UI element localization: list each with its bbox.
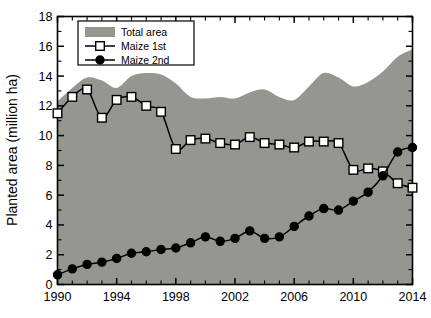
data-point-marker xyxy=(305,212,313,220)
data-point-marker xyxy=(364,188,372,196)
x-tick-label: 2006 xyxy=(280,290,308,304)
data-point-marker xyxy=(334,139,343,148)
data-point-marker xyxy=(275,233,283,241)
y-tick-label: 2 xyxy=(46,248,53,262)
data-point-marker xyxy=(142,248,150,256)
y-axis-title: Planted area (million ha) xyxy=(4,74,20,226)
data-point-marker xyxy=(83,260,91,268)
data-point-marker xyxy=(305,137,314,146)
data-point-marker xyxy=(334,206,342,214)
legend-label: Total area xyxy=(121,26,167,38)
legend-marker-open-square xyxy=(96,42,105,51)
data-point-marker xyxy=(127,249,135,257)
data-point-marker xyxy=(275,140,284,149)
data-point-marker xyxy=(394,148,402,156)
y-tick-label: 6 xyxy=(46,189,53,203)
data-point-marker xyxy=(364,164,373,173)
data-point-marker xyxy=(83,85,92,94)
plot-area xyxy=(58,49,413,284)
data-point-marker xyxy=(349,166,358,175)
data-point-marker xyxy=(408,143,416,151)
y-tick-label: 12 xyxy=(39,99,53,113)
data-point-marker xyxy=(290,143,299,152)
chart-container: 0246810121416181990199419982002200620102… xyxy=(0,0,431,318)
data-point-marker xyxy=(260,139,269,148)
data-point-marker xyxy=(157,107,166,116)
y-tick-label: 10 xyxy=(39,129,53,143)
data-point-marker xyxy=(186,136,195,145)
data-point-marker xyxy=(260,234,268,242)
chart-legend: Total areaMaize 1stMaize 2nd xyxy=(78,21,194,66)
data-point-marker xyxy=(172,145,181,154)
x-tick-label: 2002 xyxy=(221,290,249,304)
data-point-marker xyxy=(231,140,240,149)
data-point-marker xyxy=(245,133,254,142)
data-point-marker xyxy=(53,109,62,118)
x-tick-label: 1998 xyxy=(162,290,190,304)
x-tick-label: 2010 xyxy=(339,290,367,304)
data-point-marker xyxy=(172,244,180,252)
y-tick-label: 16 xyxy=(39,40,53,54)
legend-label: Maize 1st xyxy=(121,40,166,52)
data-point-marker xyxy=(53,271,61,279)
data-point-marker xyxy=(157,245,165,253)
data-point-marker xyxy=(393,179,402,188)
data-point-marker xyxy=(379,172,387,180)
legend-swatch-total-area xyxy=(85,27,115,37)
data-point-marker xyxy=(349,197,357,205)
data-point-marker xyxy=(68,265,76,273)
data-point-marker xyxy=(112,96,121,105)
legend-marker-filled-circle xyxy=(96,56,104,64)
y-tick-label: 4 xyxy=(46,218,53,232)
data-point-marker xyxy=(201,134,210,143)
data-point-marker xyxy=(320,204,328,212)
data-point-marker xyxy=(216,237,224,245)
data-point-marker xyxy=(231,234,239,242)
data-point-marker xyxy=(246,227,254,235)
data-point-marker xyxy=(290,222,298,230)
x-tick-label: 2014 xyxy=(399,290,427,304)
planted-area-chart: 0246810121416181990199419982002200620102… xyxy=(0,0,431,318)
data-point-marker xyxy=(68,93,77,102)
y-tick-label: 14 xyxy=(39,70,53,84)
data-point-marker xyxy=(98,113,107,122)
data-point-marker xyxy=(408,183,417,192)
data-point-marker xyxy=(319,137,328,146)
data-point-marker xyxy=(98,258,106,266)
x-tick-label: 1990 xyxy=(44,290,72,304)
y-tick-label: 8 xyxy=(46,159,53,173)
data-point-marker xyxy=(127,93,136,102)
data-point-marker xyxy=(201,233,209,241)
y-tick-label: 18 xyxy=(39,10,53,24)
data-point-marker xyxy=(142,102,151,111)
total-area-fill xyxy=(58,49,413,284)
data-point-marker xyxy=(187,239,195,247)
x-tick-label: 1994 xyxy=(103,290,131,304)
data-point-marker xyxy=(113,254,121,262)
legend-label: Maize 2nd xyxy=(121,54,170,66)
data-point-marker xyxy=(216,139,225,148)
